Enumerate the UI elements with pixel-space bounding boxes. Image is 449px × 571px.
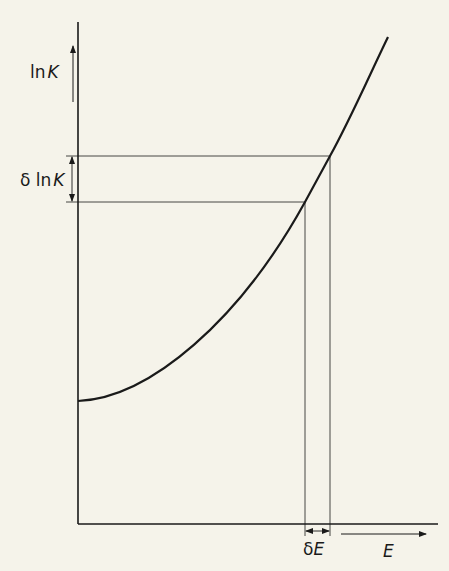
lnk-curve xyxy=(78,37,388,401)
delta-lnk-label: δ lnK xyxy=(20,170,66,190)
lnk-vs-e-diagram: lnK E δ lnK δE xyxy=(0,0,449,571)
delta-e-label: δE xyxy=(303,539,324,559)
x-axis-label: E xyxy=(383,541,394,561)
y-axis-label: lnK xyxy=(30,62,61,82)
